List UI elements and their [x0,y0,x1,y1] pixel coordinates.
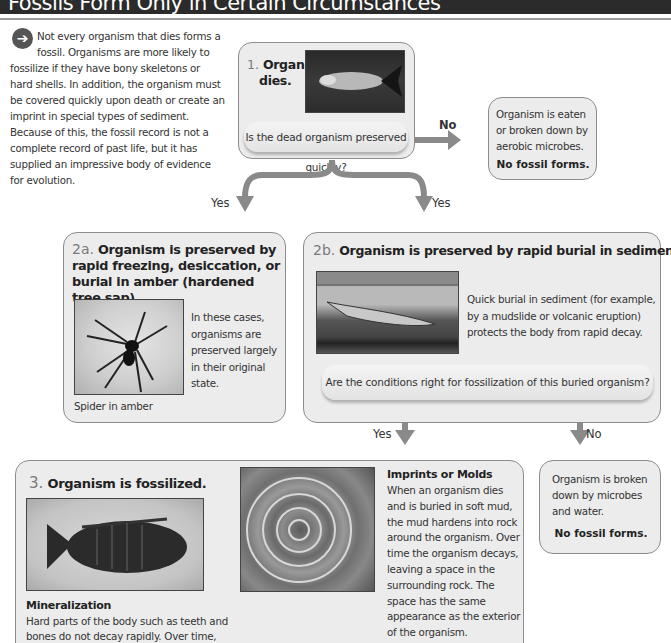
no-fossil-box-1: Organism is eaten or broken down by aero… [488,97,597,180]
step2a-text: In these cases, organisms are preserved … [191,309,281,392]
no-branch-2-result: No fossil forms. [552,527,650,539]
step2a-number: 2a. [72,241,94,257]
step2a-box: 2a. Organism is preserved by rapid freez… [63,232,286,423]
step2a-heading-text: Organism is preserved by rapid freezing,… [72,242,280,305]
page-title: Fossils Form Only in Certain Circumstanc… [0,0,671,14]
no-fossil-box-2: Organism is broken down by microbes and … [539,460,661,554]
step2b-question-text: Are the conditions right for fossilizati… [325,376,649,388]
step1-number: 1. [247,57,259,72]
yes-label-left: Yes [211,196,230,210]
no-arrow-1-head [448,130,461,150]
fossil-fish-photo [26,498,204,591]
step2a-heading: 2a. Organism is preserved by rapid freez… [72,241,282,306]
imprints-text: When an organism dies and is buried in s… [387,483,522,641]
step2b-question: Are the conditions right for fossilizati… [322,365,653,400]
yes-label-right: Yes [432,196,451,210]
step3-number: 3. [29,474,43,492]
step2a-caption: Spider in amber [74,399,153,415]
yes-label-2: Yes [373,427,392,441]
no-branch-1-result: No fossil forms. [496,158,590,170]
mineralization-title: Mineralization [26,598,246,614]
fish-photo [305,50,405,113]
imprints-title: Imprints or Molds [387,467,522,483]
imprints-section: Imprints or Molds When an organism dies … [387,467,522,641]
intro-text: Not every organism that dies forms a fos… [10,30,225,186]
step3-heading: 3. Organism is fossilized. [29,474,206,492]
mineralization-text: Hard parts of the body such as teeth and… [26,614,241,643]
step3-box: 3. Organism is fossilized. Mineralizatio… [15,460,524,643]
title-divider [0,18,671,20]
intro-paragraph: ➔ Not every organism that dies forms a f… [10,28,225,188]
step2b-heading: 2b. Organism is preserved by rapid buria… [313,242,671,258]
arrow-right-circle-icon: ➔ [12,28,33,49]
step2b-number: 2b. [313,242,335,258]
step1-question: Is the dead organism preserved quickly? [244,122,408,152]
sediment-burial-photo [316,271,459,354]
step2b-text: Quick burial in sediment (for example, b… [467,291,657,341]
spider-in-amber-photo [74,299,184,395]
mineralization-section: Mineralization Hard parts of the body su… [26,598,246,643]
no-branch-2-text: Organism is broken down by microbes and … [552,471,650,519]
no-branch-1-text: Organism is eaten or broken down by aero… [496,106,590,154]
step1-heading-line2: dies. [247,73,291,88]
step2b-heading-text: Organism is preserved by rapid burial in… [339,243,671,258]
no-label-2: No [586,427,602,441]
step3-heading-text: Organism is fossilized. [47,476,206,491]
no-arrow-1 [415,137,449,143]
ammonite-photo [240,467,375,592]
